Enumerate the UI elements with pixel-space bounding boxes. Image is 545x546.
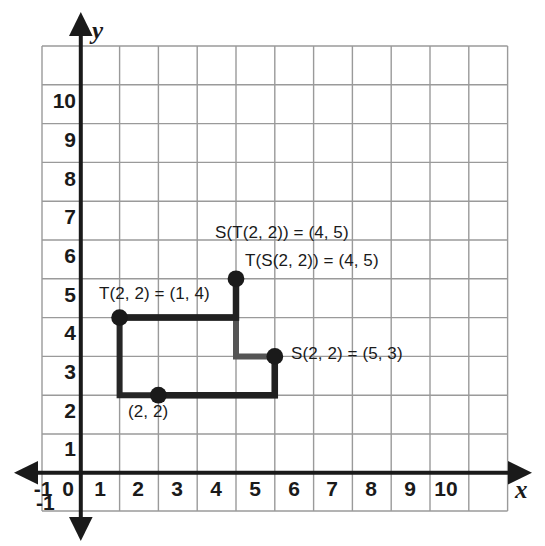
x-tick-0: 0 bbox=[56, 478, 80, 499]
label-transform-t: T(2, 2) = (1, 4) bbox=[99, 285, 210, 302]
label-origin-point: (2, 2) bbox=[128, 403, 168, 420]
grid-lines bbox=[42, 46, 508, 511]
x-tick-2: 2 bbox=[126, 478, 150, 499]
y-tick-2: 2 bbox=[44, 400, 76, 421]
x-tick-8: 8 bbox=[359, 478, 383, 499]
y-tick-7: 7 bbox=[44, 206, 76, 227]
y-tick-1: 1 bbox=[44, 438, 76, 459]
x-tick-10: 10 bbox=[430, 478, 462, 499]
label-composite-ts: T(S(2, 2)) = (4, 5) bbox=[245, 252, 379, 269]
y-tick-5: 5 bbox=[44, 284, 76, 305]
x-tick-1: 1 bbox=[88, 478, 112, 499]
x-tick-negative-1: -1 bbox=[26, 478, 60, 499]
x-tick-9: 9 bbox=[398, 478, 422, 499]
y-tick-9: 9 bbox=[44, 129, 76, 150]
x-axis-label: x bbox=[515, 477, 528, 502]
y-tick-8: 8 bbox=[44, 168, 76, 189]
x-tick-3: 3 bbox=[165, 478, 189, 499]
y-tick-3: 3 bbox=[44, 361, 76, 382]
path-emphasis-bottom bbox=[158, 356, 274, 395]
coordinate-plane-figure: 10 9 8 7 6 5 4 3 2 1 -1 -1 0 1 2 3 4 5 6… bbox=[0, 0, 545, 546]
y-tick-10: 10 bbox=[44, 90, 76, 111]
x-tick-6: 6 bbox=[282, 478, 306, 499]
label-transform-s: S(2, 2) = (5, 3) bbox=[291, 345, 403, 362]
point-1-4 bbox=[111, 309, 128, 326]
point-5-3 bbox=[266, 348, 283, 365]
label-composite-st: S(T(2, 2)) = (4, 5) bbox=[215, 224, 349, 241]
graph-canvas bbox=[0, 0, 545, 546]
x-tick-7: 7 bbox=[320, 478, 344, 499]
y-tick-4: 4 bbox=[44, 322, 76, 343]
x-tick-5: 5 bbox=[243, 478, 267, 499]
y-axis-label: y bbox=[92, 18, 103, 43]
x-tick-4: 4 bbox=[204, 478, 228, 499]
point-4-5 bbox=[228, 270, 245, 287]
y-tick-6: 6 bbox=[44, 245, 76, 266]
